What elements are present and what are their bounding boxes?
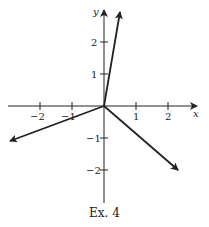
x-axis-label: x <box>193 108 199 119</box>
vector-up <box>104 12 120 106</box>
x-tick-label: 1 <box>133 111 139 122</box>
y-tick-label: −1 <box>86 133 101 144</box>
y-tick-label: 1 <box>91 69 97 80</box>
y-tick-label: −2 <box>86 165 101 176</box>
x-tick-label: −2 <box>30 111 45 122</box>
y-axis-label: y <box>92 6 99 17</box>
figure-caption: Ex. 4 <box>0 206 209 220</box>
vector-diagram: −2 −1 1 2 2 1 −1 −2 x y <box>0 0 209 227</box>
x-tick-label: 2 <box>165 111 171 122</box>
y-tick-label: 2 <box>91 37 97 48</box>
